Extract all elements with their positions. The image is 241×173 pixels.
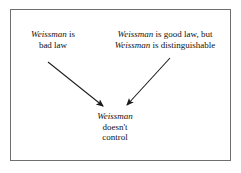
conclusion-line-3: control: [78, 132, 152, 143]
good-law-premise-line-1-rest: is good law, but: [153, 29, 212, 39]
case-name-weissman: Weissman: [78, 111, 152, 122]
case-name-weissman: Weissman: [115, 40, 151, 50]
case-name-weissman: Weissman: [118, 29, 154, 39]
good-law-premise-line-2-rest: is distinguishable: [150, 40, 215, 50]
bad-law-premise: Weissman is bad law: [16, 29, 90, 50]
case-name-weissman: Weissman: [31, 29, 67, 39]
bad-law-premise-line-2: bad law: [16, 40, 90, 51]
good-law-premise: Weissman is good law, but Weissman is di…: [104, 29, 226, 50]
bad-law-premise-line-1: Weissman is: [16, 29, 90, 40]
bad-law-premise-line-1-rest: is: [67, 29, 75, 39]
good-law-premise-line-2: Weissman is distinguishable: [104, 40, 226, 51]
conclusion-node: Weissman doesn't control: [78, 111, 152, 143]
figure-container: Weissman is bad law Weissman is good law…: [0, 0, 241, 173]
conclusion-line-2: doesn't: [78, 122, 152, 133]
good-law-premise-line-1: Weissman is good law, but: [104, 29, 226, 40]
